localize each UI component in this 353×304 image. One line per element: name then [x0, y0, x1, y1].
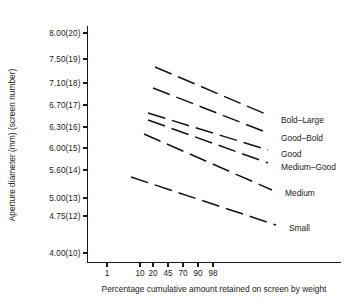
y-tick-label: 4.00(10): [49, 249, 80, 258]
chart-plot-area: 8.00(20)7.50(19)7.10(18)6.70(17)6.30(16)…: [0, 0, 353, 304]
y-tick-label: 8.00(20): [49, 29, 80, 38]
y-tick-label: 4.75(12): [49, 212, 80, 221]
x-tick-label: 45: [163, 269, 173, 278]
x-tick-label: 20: [148, 269, 158, 278]
series-label: Good–Bold: [281, 133, 323, 143]
aperture-diameter-chart: 8.00(20)7.50(19)7.10(18)6.70(17)6.30(16)…: [0, 0, 353, 304]
series-label: Good: [281, 149, 302, 159]
x-tick-label: 98: [208, 269, 218, 278]
series-line: [153, 88, 268, 133]
series-line: [131, 177, 276, 225]
x-tick-label: 10: [135, 269, 145, 278]
y-axis-ticks: 8.00(20)7.50(19)7.10(18)6.70(17)6.30(16)…: [49, 29, 87, 258]
x-tick-label: 90: [193, 269, 203, 278]
y-tick-label: 6.30(16): [49, 123, 80, 132]
chart-series-group: [131, 67, 276, 225]
series-label: Medium–Good: [281, 162, 336, 172]
x-axis-title: Percentage cumulative amount retained on…: [102, 284, 328, 294]
y-tick-label: 6.00(15): [49, 144, 80, 153]
y-axis-title: Aperture diameter (mm) (screen number): [7, 68, 17, 221]
series-line: [148, 113, 268, 150]
series-label: Medium: [285, 188, 315, 198]
series-line: [144, 134, 272, 190]
y-tick-label: 7.10(18): [49, 79, 80, 88]
y-tick-label: 5.60(14): [49, 166, 80, 175]
series-label: Small: [289, 223, 310, 233]
y-tick-label: 5.00(13): [49, 194, 80, 203]
series-label: Bold–Large: [281, 115, 324, 125]
x-axis-ticks: 1102045709098: [105, 263, 218, 278]
y-tick-label: 6.70(17): [49, 101, 80, 110]
y-tick-label: 7.50(19): [49, 55, 80, 64]
series-line: [155, 67, 268, 115]
x-tick-label: 1: [105, 269, 110, 278]
x-tick-label: 70: [178, 269, 188, 278]
chart-series-labels: Bold–LargeGood–BoldGoodMedium–GoodMedium…: [281, 115, 336, 233]
